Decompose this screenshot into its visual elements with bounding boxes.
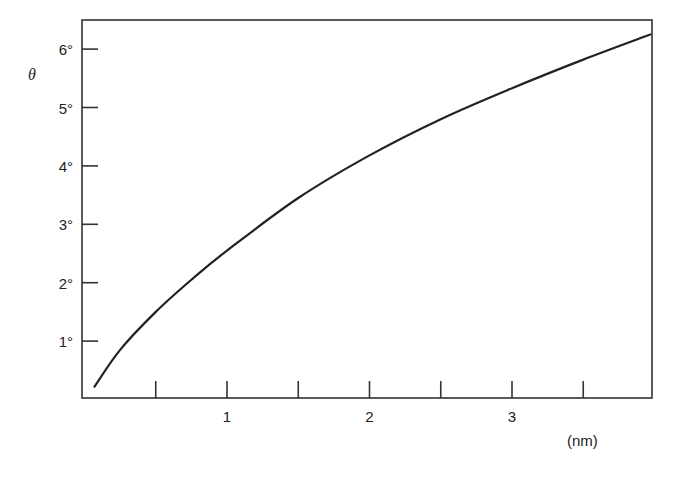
x-axis-label: (nm) <box>567 432 598 449</box>
x-tick-label: 2 <box>365 408 373 425</box>
x-tick-label: 3 <box>508 408 516 425</box>
y-axis-ticks: 1°2°3°4°5°6° <box>59 41 98 350</box>
x-tick-label: 1 <box>223 408 231 425</box>
y-tick-label: 5° <box>59 100 73 117</box>
data-curve <box>94 35 650 387</box>
y-tick-label: 2° <box>59 275 73 292</box>
y-tick-label: 4° <box>59 158 73 175</box>
x-axis-ticks: 123 <box>156 381 584 425</box>
y-tick-label: 1° <box>59 333 73 350</box>
chart: 1°2°3°4°5°6° 123 θ (nm) <box>0 0 677 486</box>
plot-frame <box>82 20 652 398</box>
y-tick-label: 3° <box>59 216 73 233</box>
y-axis-label: θ <box>28 66 36 83</box>
y-tick-label: 6° <box>59 41 73 58</box>
